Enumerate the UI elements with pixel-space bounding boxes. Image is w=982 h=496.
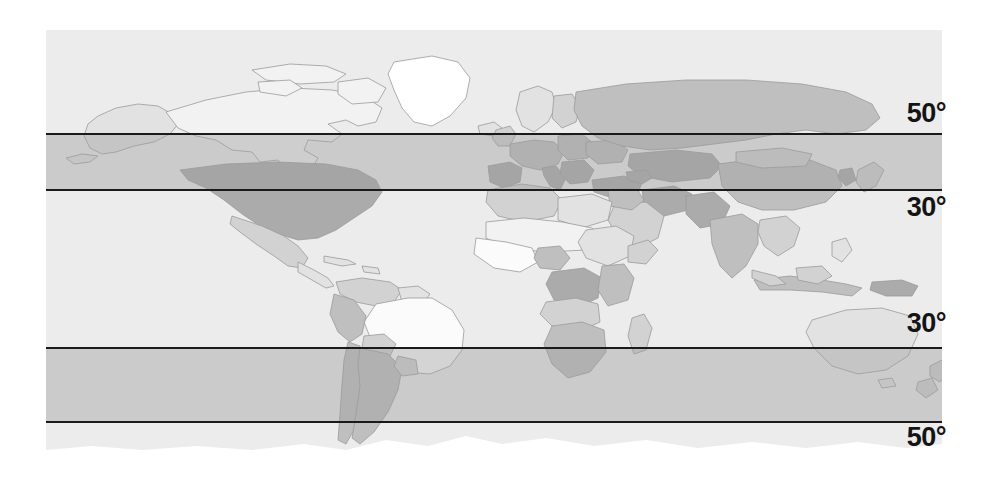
southern-band-overlay — [46, 348, 942, 422]
figure-canvas: 50° 30° 30° 50° — [0, 0, 982, 496]
latitude-label-north-50: 50° — [907, 100, 946, 127]
latitude-label-south-30: 30° — [907, 310, 946, 337]
world-map-svg — [46, 30, 942, 476]
world-map — [46, 30, 942, 476]
latitude-label-north-30: 30° — [907, 194, 946, 221]
latitude-label-south-50: 50° — [907, 424, 946, 451]
northern-band-overlay — [46, 134, 942, 190]
